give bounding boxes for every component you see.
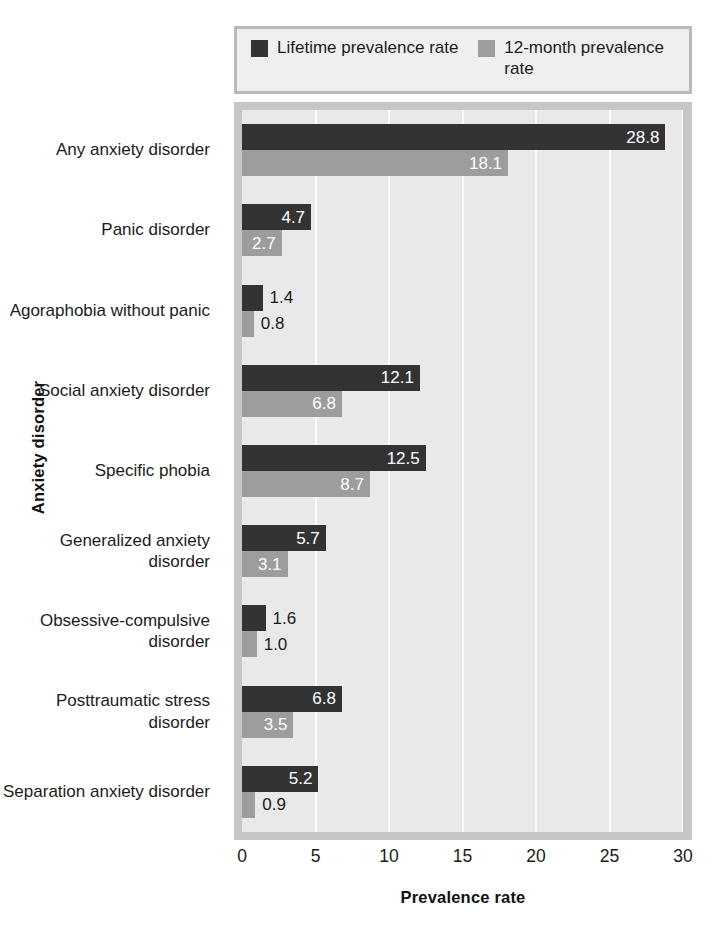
prevalence-rate-bar-chart: Anxiety disorder Lifetime prevalence rat… <box>0 0 724 943</box>
bar-group: 12.58.7 <box>242 445 683 497</box>
bar-12-month[interactable]: 2.7 <box>242 230 282 256</box>
bar-row[interactable]: 8.7 <box>242 471 683 497</box>
bar-row[interactable]: 12.1 <box>242 365 683 391</box>
bar-value-label: 3.1 <box>258 556 282 573</box>
bar-12-month[interactable]: 8.7 <box>242 471 370 497</box>
bar-value-label: 1.0 <box>264 636 288 653</box>
bar-row[interactable]: 12.5 <box>242 445 683 471</box>
x-tick-label: 10 <box>379 846 398 867</box>
bar-lifetime[interactable]: 12.5 <box>242 445 426 471</box>
legend-entry-lifetime: Lifetime prevalence rate <box>251 37 478 58</box>
category-label: Social anxiety disorder <box>0 380 210 402</box>
legend-inner: Lifetime prevalence rate 12-month preval… <box>237 29 689 91</box>
x-axis-tick-labels: 051015202530 <box>234 846 692 872</box>
x-axis-title: Prevalence rate <box>234 888 692 907</box>
bar-lifetime[interactable]: 5.7 <box>242 525 326 551</box>
bar-row[interactable]: 0.8 <box>242 311 683 337</box>
x-tick-label: 20 <box>526 846 545 867</box>
x-tick-label: 30 <box>673 846 692 867</box>
category-label: Any anxiety disorder <box>0 139 210 161</box>
bar-group: 5.20.9 <box>242 766 683 818</box>
bar-value-label: 3.5 <box>264 716 288 733</box>
bar-value-label: 2.7 <box>252 235 276 252</box>
bar-value-label: 6.8 <box>312 690 336 707</box>
plot-frame: 28.818.14.72.71.40.812.16.812.58.75.73.1… <box>234 102 692 840</box>
bar-lifetime[interactable]: 5.2 <box>242 766 318 792</box>
bar-lifetime[interactable]: 12.1 <box>242 365 420 391</box>
bar-value-label: 8.7 <box>340 476 364 493</box>
bar-row[interactable]: 3.5 <box>242 712 683 738</box>
bar-row[interactable]: 5.2 <box>242 766 683 792</box>
bar-row[interactable]: 6.8 <box>242 686 683 712</box>
bar-12-month[interactable]: 6.8 <box>242 391 342 417</box>
category-label: Panic disorder <box>0 219 210 241</box>
legend-label-12-month: 12-month prevalence rate <box>504 37 689 79</box>
bar-group: 4.72.7 <box>242 204 683 256</box>
x-tick-label: 15 <box>453 846 472 867</box>
legend-swatch-dark-icon <box>251 40 268 57</box>
bar-value-label: 6.8 <box>312 395 336 412</box>
bar-12-month[interactable]: 18.1 <box>242 150 508 176</box>
bar-value-label: 4.7 <box>281 209 305 226</box>
x-tick-label: 5 <box>311 846 321 867</box>
bar-group: 6.83.5 <box>242 686 683 738</box>
bar-group: 12.16.8 <box>242 365 683 417</box>
legend-swatch-gray-icon <box>478 40 495 57</box>
bar-row[interactable]: 3.1 <box>242 551 683 577</box>
bar-value-label: 5.7 <box>296 530 320 547</box>
bar-group: 1.61.0 <box>242 605 683 657</box>
chart-legend: Lifetime prevalence rate 12-month preval… <box>234 26 692 94</box>
bar-row[interactable]: 1.6 <box>242 605 683 631</box>
bar-row[interactable]: 18.1 <box>242 150 683 176</box>
bar-value-label: 1.4 <box>270 289 294 306</box>
bar-row[interactable]: 2.7 <box>242 230 683 256</box>
bar-group: 28.818.1 <box>242 124 683 176</box>
y-axis-category-labels: Any anxiety disorderPanic disorderAgorap… <box>0 102 222 840</box>
bar-value-label: 12.5 <box>387 450 420 467</box>
bar-group: 5.73.1 <box>242 525 683 577</box>
legend-entry-12-month: 12-month prevalence rate <box>478 37 689 79</box>
bar-12-month[interactable] <box>242 792 255 818</box>
bar-row[interactable]: 1.0 <box>242 631 683 657</box>
bar-row[interactable]: 4.7 <box>242 204 683 230</box>
bar-value-label: 0.8 <box>261 315 285 332</box>
bar-row[interactable]: 28.8 <box>242 124 683 150</box>
bar-group: 1.40.8 <box>242 285 683 337</box>
bars-layer: 28.818.14.72.71.40.812.16.812.58.75.73.1… <box>242 110 683 832</box>
bar-value-label: 28.8 <box>626 129 659 146</box>
bar-value-label: 0.9 <box>262 796 286 813</box>
x-tick-label: 0 <box>237 846 247 867</box>
bar-lifetime[interactable]: 6.8 <box>242 686 342 712</box>
plot-area: 28.818.14.72.71.40.812.16.812.58.75.73.1… <box>242 110 683 832</box>
bar-row[interactable]: 6.8 <box>242 391 683 417</box>
bar-value-label: 5.2 <box>289 770 313 787</box>
bar-12-month[interactable]: 3.1 <box>242 551 288 577</box>
category-label: Specific phobia <box>0 460 210 482</box>
bar-12-month[interactable] <box>242 311 254 337</box>
bar-row[interactable]: 1.4 <box>242 285 683 311</box>
category-label: Posttraumatic stress disorder <box>0 690 210 733</box>
category-label: Separation anxiety disorder <box>0 781 210 803</box>
bar-lifetime[interactable] <box>242 605 266 631</box>
bar-value-label: 1.6 <box>273 610 297 627</box>
bar-value-label: 12.1 <box>381 369 414 386</box>
legend-label-lifetime: Lifetime prevalence rate <box>277 37 458 58</box>
bar-lifetime[interactable]: 4.7 <box>242 204 311 230</box>
bar-value-label: 18.1 <box>469 155 502 172</box>
bar-12-month[interactable]: 3.5 <box>242 712 293 738</box>
bar-row[interactable]: 5.7 <box>242 525 683 551</box>
category-label: Obsessive-compulsive disorder <box>0 610 210 653</box>
bar-lifetime[interactable] <box>242 285 263 311</box>
category-label: Generalized anxiety disorder <box>0 530 210 573</box>
bar-row[interactable]: 0.9 <box>242 792 683 818</box>
category-label: Agoraphobia without panic <box>0 300 210 322</box>
bar-lifetime[interactable]: 28.8 <box>242 124 665 150</box>
bar-12-month[interactable] <box>242 631 257 657</box>
x-tick-label: 25 <box>600 846 619 867</box>
